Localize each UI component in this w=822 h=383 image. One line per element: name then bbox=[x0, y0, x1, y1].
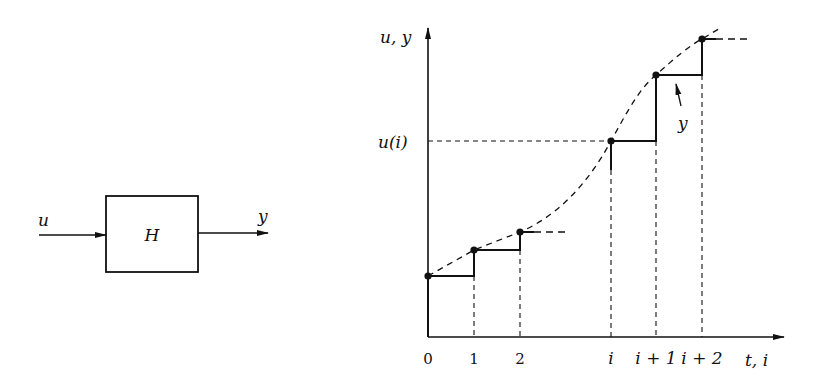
sample-point bbox=[698, 35, 705, 42]
input-label: u bbox=[38, 210, 49, 230]
block-diagram: u H y bbox=[38, 196, 268, 272]
tick-i: i bbox=[608, 348, 613, 368]
y-marker-label: u(i) bbox=[378, 132, 408, 152]
annotation-arrow bbox=[676, 84, 681, 106]
block-label: H bbox=[144, 225, 161, 245]
continuous-signal-curve bbox=[428, 27, 722, 276]
tick-i-plus-1: i + 1 bbox=[635, 348, 676, 368]
sample-point bbox=[652, 71, 659, 78]
output-label: y bbox=[257, 206, 268, 226]
diagram-canvas: u H y u, y t, i u(i) 0 1 2 i i + 1 i + 2 bbox=[0, 0, 822, 383]
tick-2: 2 bbox=[515, 350, 525, 368]
y-axis-label: u, y bbox=[380, 27, 412, 47]
tick-1: 1 bbox=[469, 350, 479, 368]
staircase-output-right bbox=[611, 39, 716, 170]
tick-i-plus-2: i + 2 bbox=[681, 348, 722, 368]
sample-point bbox=[516, 228, 523, 235]
tick-0: 0 bbox=[423, 350, 433, 368]
sample-point bbox=[424, 272, 431, 279]
drop-lines bbox=[474, 75, 702, 337]
plot-axes: u, y t, i u(i) bbox=[378, 27, 784, 370]
sample-point bbox=[470, 246, 477, 253]
curve-annotation-y: y bbox=[677, 113, 688, 133]
x-axis-label: t, i bbox=[745, 350, 768, 370]
sample-point bbox=[607, 137, 614, 144]
x-tick-labels: 0 1 2 i i + 1 i + 2 bbox=[423, 348, 722, 368]
sample-points bbox=[424, 35, 705, 279]
